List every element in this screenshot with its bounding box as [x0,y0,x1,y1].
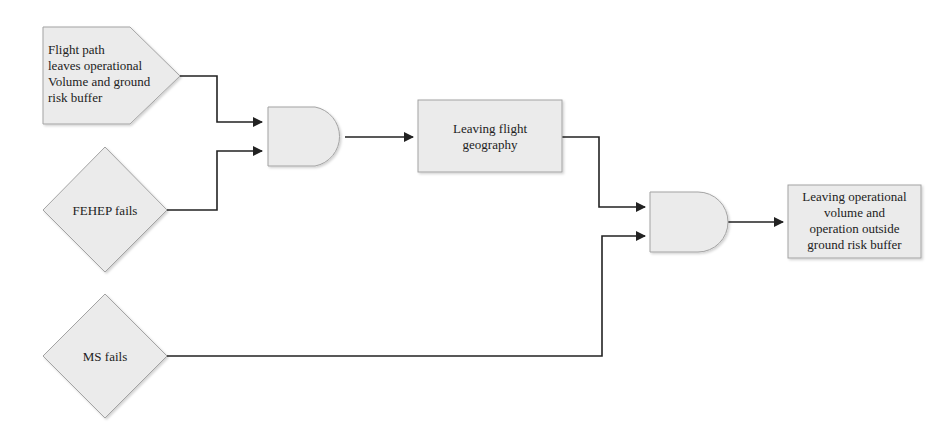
fehep-node-label: FEHEP fails [48,202,162,218]
label-line: ground risk buffer [788,237,921,253]
ms-node-label: MS fails [48,348,162,364]
label-line: Leaving operational [788,189,921,205]
label-line: risk buffer [48,90,178,106]
label-line: leaves operational [48,58,178,74]
label-line: operation outside [788,221,921,237]
leaving-flight-geography-label: Leaving flight geography [418,121,562,153]
edge-n1-g1 [180,76,262,122]
label-line: Volume and ground [48,74,178,90]
label-line: Flight path [48,42,178,58]
and-gate-1 [268,107,340,166]
label-line: Leaving flight [418,121,562,137]
edge-n3-g2 [167,236,645,356]
label-line: volume and [788,205,921,221]
and-gate-2 [650,192,728,252]
pentagon-node-label: Flight path leaves operational Volume an… [48,42,178,106]
edge-n2-g1 [167,151,262,210]
leaving-operational-volume-label: Leaving operational volume and operation… [788,189,921,253]
label-line: geography [418,137,562,153]
edge-n4-g2 [562,137,645,207]
